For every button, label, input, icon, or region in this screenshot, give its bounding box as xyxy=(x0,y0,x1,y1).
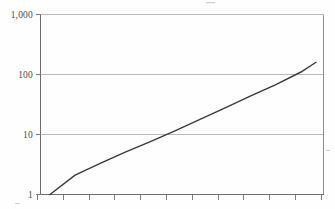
y-tick-label-10: 10 xyxy=(23,130,33,140)
chart-background xyxy=(0,0,335,209)
log-line-chart: 1,000 100 10 1 xyxy=(0,0,335,209)
y-tick-label-1000: 1,000 xyxy=(11,10,33,20)
y-tick-label-100: 100 xyxy=(18,70,33,80)
chart-container: 1,000 100 10 1 xyxy=(0,0,335,209)
y-tick-label-1: 1 xyxy=(28,190,33,200)
